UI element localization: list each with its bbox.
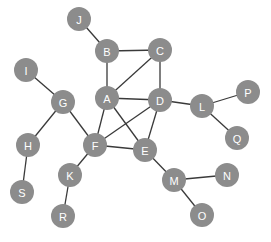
node-label: E <box>141 145 148 157</box>
node-label: B <box>103 46 110 58</box>
node-label: S <box>18 187 25 199</box>
node-m: M <box>162 168 186 192</box>
node-k: K <box>58 163 82 187</box>
node-i: I <box>14 58 38 82</box>
node-label: G <box>59 97 68 109</box>
node-label: Q <box>233 133 242 145</box>
node-label: J <box>76 14 82 26</box>
node-label: D <box>156 95 164 107</box>
network-graph: ABCDEFGHIJKLMNOPQRS <box>0 0 271 242</box>
node-h: H <box>16 133 40 157</box>
node-label: R <box>59 211 67 223</box>
node-a: A <box>95 86 119 110</box>
node-q: Q <box>225 126 249 150</box>
node-label: F <box>92 140 99 152</box>
node-l: L <box>190 94 214 118</box>
node-label: H <box>24 140 32 152</box>
node-p: P <box>236 80 260 104</box>
node-c: C <box>148 38 172 62</box>
node-label: P <box>244 87 251 99</box>
node-n: N <box>215 163 239 187</box>
node-e: E <box>133 138 157 162</box>
node-label: L <box>199 101 205 113</box>
node-label: C <box>156 45 164 57</box>
node-g: G <box>51 90 75 114</box>
node-r: R <box>51 204 75 228</box>
node-label: N <box>223 170 231 182</box>
node-label: A <box>103 93 111 105</box>
node-s: S <box>10 180 34 204</box>
edges-layer <box>22 19 248 216</box>
node-d: D <box>148 88 172 112</box>
node-label: K <box>66 170 74 182</box>
node-b: B <box>95 39 119 63</box>
node-label: O <box>198 210 207 222</box>
node-f: F <box>83 133 107 157</box>
node-label: M <box>169 175 178 187</box>
node-j: J <box>67 7 91 31</box>
node-label: I <box>24 65 27 77</box>
node-o: O <box>190 203 214 227</box>
